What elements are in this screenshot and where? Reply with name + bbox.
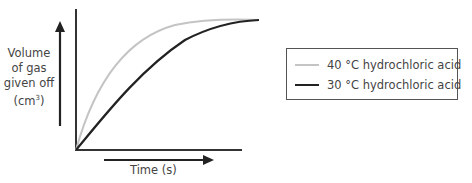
legend: 40 °C hydrochloric acid 30 °C hydrochlor… <box>286 48 458 100</box>
y-label-line-3: given off <box>0 76 58 91</box>
y-label-close: ) <box>40 94 45 108</box>
y-label-line-1: Volume <box>0 46 58 61</box>
y-label-line-4: (cm3) <box>0 91 58 109</box>
y-axis-label: Volume of gas given off (cm3) <box>0 46 58 109</box>
legend-item-40c: 40 °C hydrochloric acid <box>295 57 461 73</box>
legend-label-30c: 30 °C hydrochloric acid <box>327 78 461 92</box>
series-40c-line <box>76 20 259 150</box>
legend-swatch-30c <box>295 84 319 86</box>
series-30c-line <box>76 20 259 150</box>
x-axis-label: Time (s) <box>130 163 177 177</box>
y-label-line-2: of gas <box>0 61 58 76</box>
legend-label-40c: 40 °C hydrochloric acid <box>327 58 461 72</box>
legend-swatch-40c <box>295 64 319 66</box>
y-label-unit: (cm <box>14 94 36 108</box>
y-arrow-head-icon <box>55 21 65 32</box>
x-arrow-head-icon <box>203 155 214 165</box>
legend-item-30c: 30 °C hydrochloric acid <box>295 77 461 93</box>
